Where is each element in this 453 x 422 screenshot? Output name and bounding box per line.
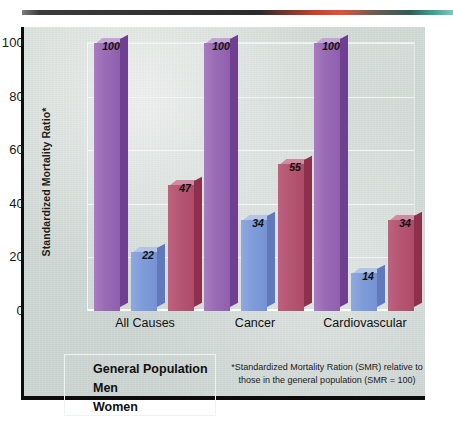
swatch-front-face xyxy=(73,384,82,394)
bar-front-face xyxy=(314,43,340,311)
y-tick-60: 60 xyxy=(0,142,24,157)
bar-cardiovascular-women[interactable]: 34 xyxy=(388,220,414,311)
bar-side-face xyxy=(157,244,165,307)
bar-cancer-men[interactable]: 34 xyxy=(241,220,267,311)
bar-side-face xyxy=(304,155,312,307)
category-label-all-causes: All Causes xyxy=(115,316,175,330)
top-decorative-rule xyxy=(22,10,453,15)
y-tick-100: 100 xyxy=(0,35,24,50)
bar-cancer-women[interactable]: 55 xyxy=(278,164,304,311)
y-axis-title: Standardized Mortality Ratio* xyxy=(40,108,52,257)
legend-label-women: Women xyxy=(93,400,138,414)
bar-all-causes-men[interactable]: 22 xyxy=(131,252,157,311)
bar-front-face xyxy=(278,164,304,311)
swatch-front-face xyxy=(73,365,82,375)
legend-label-general-population: General Population xyxy=(93,362,208,376)
footnote-line-2: those in the general population (SMR = 1… xyxy=(222,374,432,387)
bar-cardiovascular-general-population[interactable]: 100 xyxy=(314,43,340,311)
legend-item-women[interactable]: Women xyxy=(73,398,138,416)
legend-label-men: Men xyxy=(93,381,118,395)
bar-all-causes-women[interactable]: 47 xyxy=(168,185,194,311)
footnote-line-1: *Standardized Mortality Ration (SMR) rel… xyxy=(222,361,432,374)
y-tick-20: 20 xyxy=(0,249,24,264)
bar-side-face xyxy=(267,212,275,307)
y-tick-0: 0 xyxy=(0,303,24,318)
bar-front-face xyxy=(131,252,157,311)
bar-front-face xyxy=(388,220,414,311)
legend: General Population Men Women xyxy=(64,354,216,416)
bar-all-causes-general-population[interactable]: 100 xyxy=(94,43,120,311)
footnote: *Standardized Mortality Ration (SMR) rel… xyxy=(222,361,432,387)
bar-side-face xyxy=(120,35,128,307)
category-label-cardiovascular: Cardiovascular xyxy=(323,316,406,330)
legend-item-general-population[interactable]: General Population xyxy=(73,360,208,378)
legend-swatch-women-icon xyxy=(73,401,84,413)
y-tick-40: 40 xyxy=(0,195,24,210)
swatch-front-face xyxy=(73,403,82,413)
bar-cancer-general-population[interactable]: 100 xyxy=(204,43,230,311)
legend-swatch-general-population-icon xyxy=(73,363,84,375)
legend-item-men[interactable]: Men xyxy=(73,379,118,397)
bar-cardiovascular-men[interactable]: 14 xyxy=(351,273,377,311)
category-label-cancer: Cancer xyxy=(235,316,275,330)
bar-side-face xyxy=(340,35,348,307)
chart-panel: Standardized Mortality Ratio* 100 80 60 … xyxy=(21,27,425,400)
y-tick-80: 80 xyxy=(0,88,24,103)
bar-front-face xyxy=(204,43,230,311)
bar-side-face xyxy=(230,35,238,307)
bar-group-cardiovascular: 100 14 34 xyxy=(314,43,418,311)
legend-swatch-men-icon xyxy=(73,382,84,394)
bar-front-face xyxy=(94,43,120,311)
bar-side-face xyxy=(377,265,385,307)
bar-front-face xyxy=(168,185,194,311)
bar-side-face xyxy=(194,177,202,307)
bar-group-all-causes: 100 22 47 xyxy=(94,43,198,311)
plot-area: 100 22 47 100 xyxy=(87,42,415,311)
bar-front-face xyxy=(241,220,267,311)
bar-group-cancer: 100 34 55 xyxy=(204,43,308,311)
bar-side-face xyxy=(414,212,422,307)
bar-front-face xyxy=(351,273,377,311)
